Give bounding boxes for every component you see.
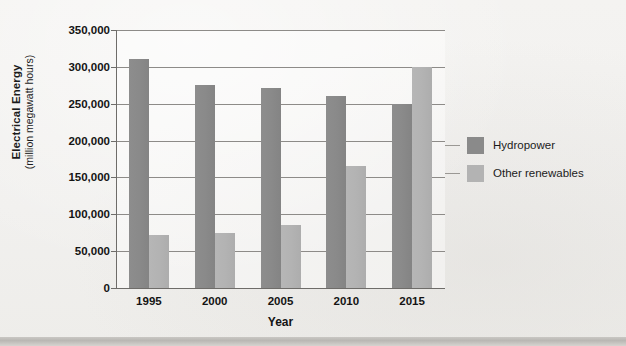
y-axis-tick xyxy=(111,104,116,105)
bar-other-renewables-2000 xyxy=(215,233,235,288)
y-axis-tick-labels: 050,000100,000150,000200,000250,000300,0… xyxy=(36,30,110,288)
y-axis-title-main: Electrical Energy xyxy=(10,12,23,212)
bar-other-renewables-2015 xyxy=(412,67,432,288)
bar-group xyxy=(195,30,235,288)
legend-item-hydropower[interactable]: Hydropower xyxy=(467,131,617,159)
chart-figure: Electrical Energy (million megawatt hour… xyxy=(0,0,626,346)
x-axis-tick-label: 1995 xyxy=(114,295,184,307)
legend-label: Other renewables xyxy=(493,167,584,179)
bar-hydropower-2010 xyxy=(326,96,346,288)
bar-other-renewables-2005 xyxy=(281,225,301,288)
y-axis-tick-label: 0 xyxy=(40,282,110,294)
y-axis-tick xyxy=(111,141,116,142)
y-axis-line xyxy=(116,30,117,288)
bar-other-renewables-2010 xyxy=(346,166,366,288)
legend-leader-line xyxy=(445,145,460,146)
bar-group xyxy=(129,30,169,288)
y-axis-tick xyxy=(111,177,116,178)
legend-item-other-renewables[interactable]: Other renewables xyxy=(467,159,617,187)
bar-hydropower-1995 xyxy=(129,59,149,288)
chart-legend: HydropowerOther renewables xyxy=(467,131,617,187)
bar-group xyxy=(326,30,366,288)
bar-hydropower-2005 xyxy=(261,88,281,288)
x-axis-tick-label: 2010 xyxy=(311,295,381,307)
x-axis-line xyxy=(116,288,445,289)
y-axis-tick-label: 200,000 xyxy=(40,135,110,147)
x-axis-tick-label: 2000 xyxy=(180,295,250,307)
legend-leader-line xyxy=(445,173,460,174)
y-axis-tick xyxy=(111,214,116,215)
x-axis-tick-labels: 19952000200520102015 xyxy=(116,295,445,313)
y-axis-tick-label: 100,000 xyxy=(40,208,110,220)
page-bottom-band xyxy=(0,337,626,346)
x-axis-tick-label: 2005 xyxy=(246,295,316,307)
y-axis-tick xyxy=(111,67,116,68)
y-axis-tick xyxy=(111,251,116,252)
x-axis-title: Year xyxy=(116,315,445,329)
legend-label: Hydropower xyxy=(493,139,555,151)
plot-area-wrapper xyxy=(116,30,445,288)
y-axis-tick-label: 350,000 xyxy=(40,24,110,36)
y-axis-tick-label: 50,000 xyxy=(40,245,110,257)
bar-hydropower-2015 xyxy=(392,104,412,288)
bar-hydropower-2000 xyxy=(195,85,215,288)
bar-other-renewables-1995 xyxy=(149,235,169,288)
legend-swatch-icon xyxy=(467,165,484,182)
bar-group xyxy=(261,30,301,288)
y-axis-title-units: (million megawatt hours) xyxy=(23,12,35,212)
x-axis-tick-label: 2015 xyxy=(377,295,447,307)
y-axis-tick xyxy=(111,30,116,31)
y-axis-tick xyxy=(111,288,116,289)
y-axis-tick-label: 300,000 xyxy=(40,61,110,73)
y-axis-tick-label: 250,000 xyxy=(40,98,110,110)
bar-group xyxy=(392,30,432,288)
legend-swatch-icon xyxy=(467,137,484,154)
y-axis-tick-label: 150,000 xyxy=(40,171,110,183)
